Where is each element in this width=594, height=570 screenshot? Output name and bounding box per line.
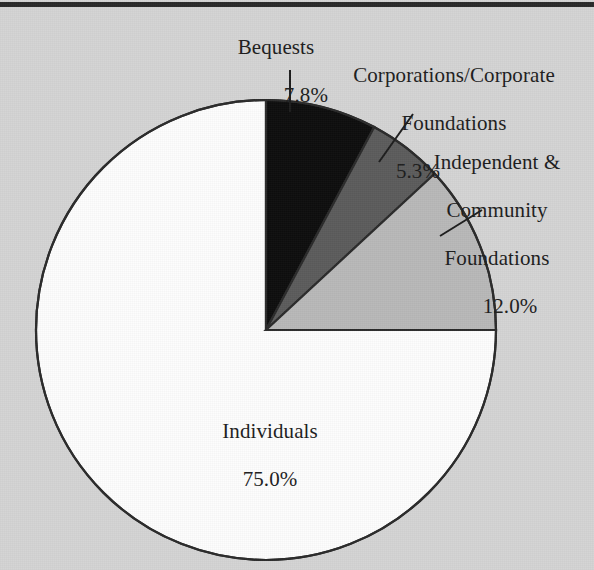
slice-label-foundations: Independent & Community Foundations 12.0… [400,127,594,342]
slice-label-foundations-percent: 12.0% [400,295,594,319]
slice-label-individuals-name: Individuals [180,420,360,444]
slice-label-foundations-line1: Independent & [400,151,594,175]
slice-label-individuals: Individuals 75.0% [180,396,360,516]
figure-page: Bequests 7.8% Corporations/Corporate Fou… [0,0,594,570]
slice-label-corporations-line1: Corporations/Corporate [320,64,588,88]
slice-label-individuals-percent: 75.0% [180,468,360,492]
pie-chart: Bequests 7.8% Corporations/Corporate Fou… [0,0,594,570]
slice-label-foundations-line3: Foundations [400,247,594,271]
slice-label-foundations-line2: Community [400,199,594,223]
